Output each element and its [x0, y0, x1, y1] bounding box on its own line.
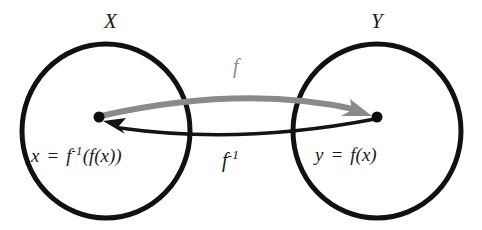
- arrow-forward-f: [101, 98, 372, 116]
- element-label-x-close-paren: ): [115, 145, 121, 166]
- element-point-x: [94, 112, 105, 123]
- arrow-label-f-text: f: [233, 55, 239, 77]
- arrow-inverse-f-curve: [120, 119, 375, 135]
- element-label-x-equals: =: [46, 145, 59, 166]
- element-label-y-equals: =: [330, 144, 343, 165]
- set-circle-x: [22, 44, 190, 218]
- arrow-forward-f-curve: [101, 98, 358, 116]
- arrow-label-f: f: [233, 56, 239, 76]
- element-label-x: x = f-1(f(x)): [31, 145, 122, 165]
- arrow-label-f-inverse: f-1: [222, 148, 239, 170]
- arrow-inverse-f-head: [103, 118, 126, 134]
- set-label-x: X: [104, 11, 117, 32]
- inverse-function-diagram: X Y x = f-1(f(x)) y = f(x) f f-1: [0, 0, 482, 230]
- element-label-x-inner: f(x): [89, 145, 115, 166]
- set-label-y: Y: [371, 11, 383, 32]
- arrow-inverse-f: [103, 118, 375, 135]
- set-circle-y: [293, 44, 461, 218]
- element-label-x-exponent: -1: [72, 144, 83, 158]
- element-point-y: [372, 112, 383, 123]
- element-label-y-argument: (x): [356, 144, 377, 165]
- diagram-canvas: [0, 0, 482, 230]
- arrow-label-f-inverse-exponent: -1: [228, 147, 240, 162]
- element-label-y: y = f(x): [315, 145, 377, 164]
